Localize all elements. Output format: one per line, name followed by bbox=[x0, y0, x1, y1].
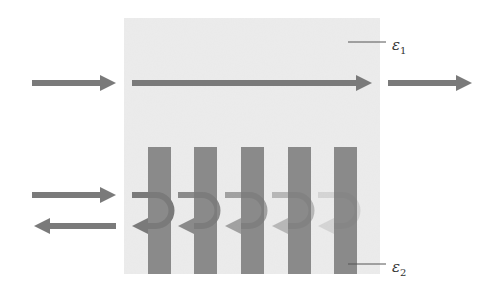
dielectric-layer bbox=[288, 147, 311, 274]
transmitted-arrow-out bbox=[388, 75, 472, 91]
dielectric-layer bbox=[334, 147, 357, 274]
incident-arrow-bottom bbox=[32, 187, 116, 203]
epsilon-subscript: 2 bbox=[400, 267, 406, 278]
epsilon-symbol: ε bbox=[392, 36, 400, 54]
wave-diagram bbox=[0, 0, 502, 295]
reflected-arrow bbox=[34, 218, 116, 234]
dielectric-layer bbox=[148, 147, 171, 274]
dielectric-layer bbox=[241, 147, 264, 274]
epsilon-subscript: 1 bbox=[400, 45, 406, 56]
dielectric-layer bbox=[194, 147, 217, 274]
incident-arrow-top bbox=[32, 75, 116, 91]
diagram-stage: ε1 ε2 bbox=[0, 0, 502, 295]
epsilon-1-label: ε1 bbox=[392, 36, 406, 56]
epsilon-2-label: ε2 bbox=[392, 258, 406, 278]
epsilon-symbol: ε bbox=[392, 258, 400, 276]
